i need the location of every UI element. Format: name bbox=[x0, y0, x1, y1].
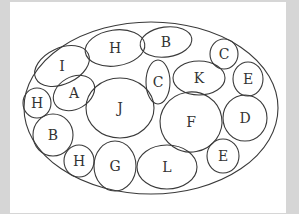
region-label: H bbox=[109, 40, 121, 56]
region-k: K bbox=[173, 61, 225, 95]
region-label: C bbox=[219, 46, 230, 62]
region-b: B bbox=[138, 24, 194, 61]
region-label: F bbox=[186, 114, 196, 130]
region-e: E bbox=[233, 62, 263, 96]
region-c: C bbox=[146, 60, 170, 104]
region-label: E bbox=[218, 148, 228, 164]
region-label: K bbox=[194, 70, 205, 86]
region-label: E bbox=[243, 71, 253, 87]
region-l: L bbox=[137, 145, 197, 189]
region-g: G bbox=[94, 141, 136, 191]
region-e: E bbox=[207, 139, 239, 173]
region-a: A bbox=[47, 68, 101, 118]
outer-ellipse bbox=[24, 22, 278, 194]
region-label: D bbox=[239, 110, 250, 126]
region-j: J bbox=[86, 78, 154, 138]
region-label: B bbox=[161, 34, 171, 50]
region-label: I bbox=[59, 58, 65, 74]
region-label: A bbox=[68, 85, 80, 101]
region-label: G bbox=[109, 158, 120, 174]
region-label: B bbox=[48, 127, 58, 143]
region-h: H bbox=[64, 145, 94, 177]
region-label: C bbox=[153, 74, 164, 90]
region-label: J bbox=[115, 100, 123, 116]
region-h: H bbox=[83, 26, 147, 70]
region-h: H bbox=[23, 88, 51, 118]
ellipse-diagram: HBCIACKEHJFDBHGLE bbox=[0, 0, 299, 214]
region-b: B bbox=[33, 114, 73, 156]
region-d: D bbox=[223, 95, 267, 141]
region-label: H bbox=[31, 95, 43, 111]
region-label: H bbox=[73, 153, 85, 169]
region-label: L bbox=[162, 159, 171, 175]
